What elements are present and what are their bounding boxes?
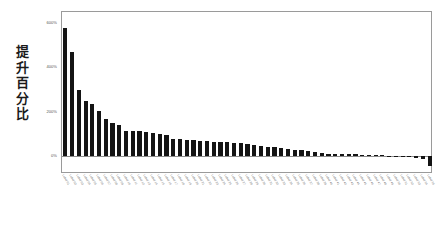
bar [313, 152, 317, 156]
bar [70, 52, 74, 156]
y-axis-tick-label: 400% [27, 64, 57, 69]
bar [137, 131, 141, 156]
bar [198, 141, 202, 157]
bar [259, 146, 263, 156]
x-axis-tick-labels: Label 01Label 02Label 03Label 04Label 05… [61, 174, 432, 237]
plot-area [62, 12, 431, 172]
bar [367, 155, 371, 156]
bar [90, 104, 94, 156]
bar [212, 142, 216, 157]
y-axis-tick-label: 0% [27, 153, 57, 158]
bar [407, 156, 411, 157]
bar [387, 156, 391, 157]
plot-frame [61, 11, 432, 173]
bar [279, 148, 283, 156]
bar [347, 154, 351, 156]
bar [340, 154, 344, 156]
bar [414, 156, 418, 158]
bar [158, 134, 162, 156]
bar [333, 154, 337, 156]
bar [164, 135, 168, 156]
bar [326, 154, 330, 157]
bar [144, 132, 148, 156]
bar [306, 151, 310, 156]
bar [374, 155, 378, 156]
bar [104, 119, 108, 157]
bar [380, 155, 384, 156]
bar [272, 147, 276, 156]
bar [63, 28, 67, 157]
bar [266, 147, 270, 156]
bar [245, 144, 249, 156]
bar [232, 143, 236, 156]
bar [394, 156, 398, 157]
bar [252, 145, 256, 156]
bar [286, 149, 290, 157]
y-axis-tick-label: 200% [27, 108, 57, 113]
bar [131, 131, 135, 156]
bar [171, 139, 175, 156]
bar [299, 150, 303, 156]
bar [401, 156, 405, 157]
bar [178, 139, 182, 156]
bar-chart-figure: 提 升 百 分 比 0%200%400%600% Label 01Label 0… [0, 0, 444, 237]
bar [218, 142, 222, 156]
y-axis-tick-label: 600% [27, 20, 57, 25]
bar [293, 150, 297, 157]
bar [239, 143, 243, 156]
bar [77, 90, 81, 157]
bars-layer [62, 12, 431, 172]
bar [117, 125, 121, 157]
bar [360, 155, 364, 157]
bar [191, 140, 195, 156]
bar [428, 156, 432, 165]
bar [320, 153, 324, 156]
bar [110, 123, 114, 157]
bar [421, 156, 425, 159]
bar [124, 131, 128, 157]
bar [84, 101, 88, 156]
bar [185, 140, 189, 156]
y-axis-tick-labels: 0%200%400%600% [27, 0, 57, 237]
bar [97, 111, 101, 156]
bar [353, 154, 357, 156]
bar [205, 141, 209, 156]
bar [225, 142, 229, 156]
bar [151, 133, 155, 156]
